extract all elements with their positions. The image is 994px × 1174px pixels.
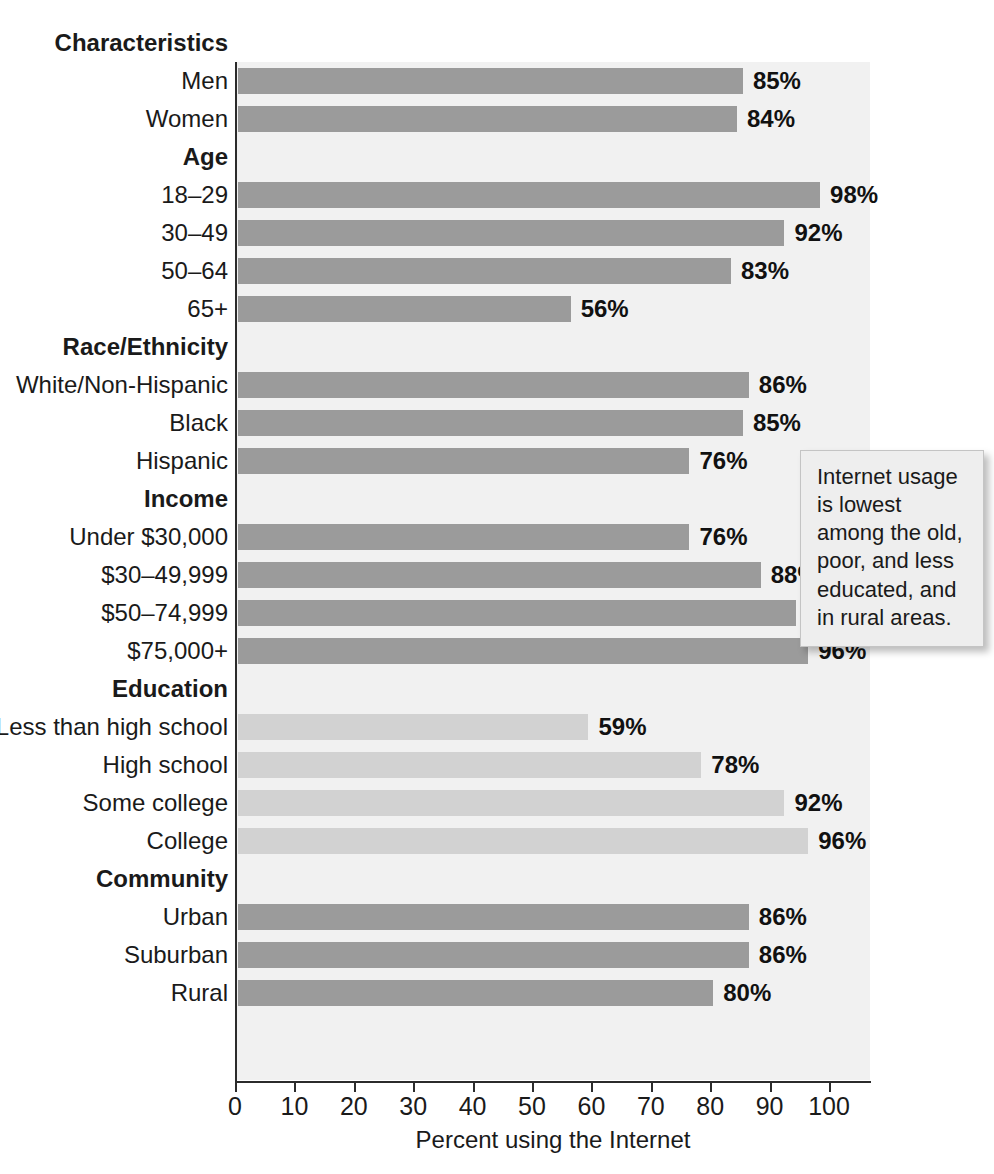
bar-value-label: 86% xyxy=(759,936,807,974)
bar-row: Some college92% xyxy=(0,784,994,822)
bar xyxy=(238,524,689,550)
bar xyxy=(238,790,784,816)
x-tick-label: 70 xyxy=(621,1092,681,1121)
bar-value-label: 76% xyxy=(699,518,747,556)
bar xyxy=(238,372,749,398)
x-tick-mark xyxy=(235,1083,237,1092)
bar-row-label: Some college xyxy=(0,784,228,822)
x-tick-mark xyxy=(591,1083,593,1092)
bar xyxy=(238,752,701,778)
bar xyxy=(238,828,808,854)
bar-row: Women84% xyxy=(0,100,994,138)
x-tick-mark xyxy=(532,1083,534,1092)
bar xyxy=(238,600,796,626)
section-header-label: Characteristics xyxy=(0,24,228,62)
x-tick-mark xyxy=(354,1083,356,1092)
bar xyxy=(238,68,743,94)
section-header-row: Community xyxy=(0,860,994,898)
callout-text: Internet usage is lowest among the old, … xyxy=(817,464,963,630)
bar-row-label: Suburban xyxy=(0,936,228,974)
bar xyxy=(238,980,713,1006)
x-tick-mark xyxy=(473,1083,475,1092)
bar xyxy=(238,904,749,930)
x-tick-label: 60 xyxy=(561,1092,621,1121)
bar xyxy=(238,448,689,474)
bar-row: 18–2998% xyxy=(0,176,994,214)
bar xyxy=(238,942,749,968)
section-header-row: Education xyxy=(0,670,994,708)
x-tick-label: 80 xyxy=(680,1092,740,1121)
bar-row-label: Hispanic xyxy=(0,442,228,480)
bar-value-label: 56% xyxy=(581,290,629,328)
section-header-row: Age xyxy=(0,138,994,176)
bar-row-label: Rural xyxy=(0,974,228,1012)
x-tick-mark xyxy=(413,1083,415,1092)
bar-row-label: Black xyxy=(0,404,228,442)
bar-row-label: 65+ xyxy=(0,290,228,328)
bar-row: White/Non-Hispanic86% xyxy=(0,366,994,404)
bar-value-label: 80% xyxy=(723,974,771,1012)
x-tick-mark xyxy=(829,1083,831,1092)
x-tick-label: 30 xyxy=(383,1092,443,1121)
x-tick-mark xyxy=(294,1083,296,1092)
bar-row-label: $30–49,999 xyxy=(0,556,228,594)
callout-box: Internet usage is lowest among the old, … xyxy=(800,450,984,647)
bar-row-label: White/Non-Hispanic xyxy=(0,366,228,404)
bar-row: High school78% xyxy=(0,746,994,784)
bar-value-label: 92% xyxy=(794,214,842,252)
x-tick-mark xyxy=(651,1083,653,1092)
bar-row: Urban86% xyxy=(0,898,994,936)
bar-value-label: 92% xyxy=(794,784,842,822)
x-axis-title: Percent using the Internet xyxy=(236,1126,870,1154)
bar-value-label: 84% xyxy=(747,100,795,138)
bar-value-label: 85% xyxy=(753,62,801,100)
bar-row-label: 50–64 xyxy=(0,252,228,290)
bar-row-label: 30–49 xyxy=(0,214,228,252)
bar-value-label: 59% xyxy=(598,708,646,746)
x-tick-label: 20 xyxy=(324,1092,384,1121)
bar xyxy=(238,106,737,132)
x-tick-label: 90 xyxy=(740,1092,800,1121)
bar-value-label: 78% xyxy=(711,746,759,784)
x-tick-label: 0 xyxy=(205,1092,265,1121)
bar-row-label: $50–74,999 xyxy=(0,594,228,632)
bar-row: 50–6483% xyxy=(0,252,994,290)
bar-row-label: College xyxy=(0,822,228,860)
bar-row-label: Under $30,000 xyxy=(0,518,228,556)
bar-row: College96% xyxy=(0,822,994,860)
bar-row-label: Less than high school xyxy=(0,708,228,746)
x-tick-mark xyxy=(770,1083,772,1092)
section-header-label: Age xyxy=(0,138,228,176)
x-tick-mark xyxy=(710,1083,712,1092)
bar-row-label: Urban xyxy=(0,898,228,936)
bar xyxy=(238,296,571,322)
section-header-label: Community xyxy=(0,860,228,898)
section-header-label: Income xyxy=(0,480,228,518)
bar-row-label: High school xyxy=(0,746,228,784)
bar-row: Men85% xyxy=(0,62,994,100)
x-axis-line xyxy=(235,1081,871,1083)
section-header-label: Race/Ethnicity xyxy=(0,328,228,366)
bar xyxy=(238,220,784,246)
bar-value-label: 85% xyxy=(753,404,801,442)
bar-row: Less than high school59% xyxy=(0,708,994,746)
bar xyxy=(238,562,761,588)
section-header-row: Race/Ethnicity xyxy=(0,328,994,366)
bar xyxy=(238,410,743,436)
bar-row: Black85% xyxy=(0,404,994,442)
bar xyxy=(238,714,588,740)
bar xyxy=(238,258,731,284)
x-tick-label: 100 xyxy=(799,1092,859,1121)
bar-row-label: 18–29 xyxy=(0,176,228,214)
bar-row: 65+56% xyxy=(0,290,994,328)
bar-row-label: Women xyxy=(0,100,228,138)
bar-value-label: 76% xyxy=(699,442,747,480)
bar-value-label: 86% xyxy=(759,366,807,404)
bar-value-label: 96% xyxy=(818,822,866,860)
section-header-label: Education xyxy=(0,670,228,708)
bar-value-label: 83% xyxy=(741,252,789,290)
internet-usage-bar-chart: CharacteristicsMen85%Women84%Age18–2998%… xyxy=(0,0,994,1174)
bar-row: Rural80% xyxy=(0,974,994,1012)
x-tick-label: 50 xyxy=(502,1092,562,1121)
bar-value-label: 98% xyxy=(830,176,878,214)
